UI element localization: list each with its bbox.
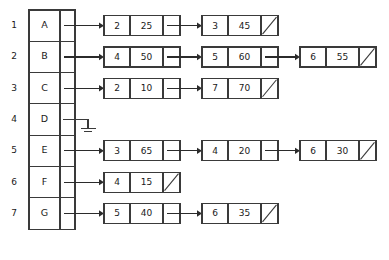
node-value: 15 <box>141 177 152 187</box>
node-value: 65 <box>141 146 152 156</box>
vertex-label-G: G <box>41 207 48 218</box>
node-value: 55 <box>337 52 348 62</box>
node-value: 40 <box>141 208 153 218</box>
list-node[interactable]: 345 <box>202 16 278 36</box>
arrow-head-icon <box>197 54 202 60</box>
row-number-6: 6 <box>11 177 17 187</box>
row-number-3: 3 <box>11 83 17 93</box>
chain-row-7: 540635 <box>64 203 278 223</box>
node-index: 4 <box>114 177 120 187</box>
arrow-head-icon <box>197 22 202 28</box>
vertex-label-F: F <box>42 176 47 187</box>
arrow-head-icon <box>99 54 104 60</box>
arrow-head-icon <box>197 85 202 91</box>
row-number-7: 7 <box>11 208 17 218</box>
node-value: 35 <box>239 208 250 218</box>
list-node[interactable]: 770 <box>202 78 278 98</box>
node-index: 2 <box>114 21 120 31</box>
arrow-head-icon <box>99 210 104 216</box>
row-number-5: 5 <box>11 145 17 155</box>
adjacency-list-diagram: 1A2B3C4D5E6F7G22534545056065521077036542… <box>0 0 389 260</box>
node-index: 6 <box>212 208 218 218</box>
node-index: 3 <box>212 21 218 31</box>
chain-row-5: 365420630 <box>64 141 376 161</box>
node-index: 6 <box>310 52 316 62</box>
arrow-head-icon <box>197 210 202 216</box>
vertex-label-E: E <box>41 144 47 155</box>
arrow-head-icon <box>99 179 104 185</box>
chain-row-6: 415 <box>64 172 180 192</box>
node-index: 4 <box>114 52 120 62</box>
chain-row-2: 450560655 <box>64 47 376 67</box>
node-index: 6 <box>310 146 316 156</box>
node-index: 5 <box>114 208 120 218</box>
node-index: 4 <box>212 146 218 156</box>
node-value: 30 <box>337 146 349 156</box>
node-value: 50 <box>141 52 153 62</box>
node-index: 3 <box>114 146 120 156</box>
vertex-label-C: C <box>41 82 48 93</box>
list-node[interactable]: 630 <box>300 141 376 161</box>
node-index: 5 <box>212 52 218 62</box>
arrow-head-icon <box>295 148 300 154</box>
list-node[interactable]: 415 <box>104 172 180 192</box>
node-value: 10 <box>141 83 153 93</box>
arrow-head-icon <box>99 85 104 91</box>
node-index: 7 <box>212 83 218 93</box>
node-value: 70 <box>239 83 251 93</box>
arrow-head-icon <box>197 148 202 154</box>
vertex-label-B: B <box>41 50 48 61</box>
node-value: 60 <box>239 52 251 62</box>
node-value: 45 <box>239 21 250 31</box>
vertex-label-A: A <box>41 19 48 30</box>
row-number-4: 4 <box>11 114 17 124</box>
diagram-canvas: 1A2B3C4D5E6F7G22534545056065521077036542… <box>0 0 389 260</box>
arrow-head-icon <box>99 22 104 28</box>
list-node[interactable]: 635 <box>202 203 278 223</box>
node-value: 20 <box>239 146 251 156</box>
arrow-head-icon <box>99 148 104 154</box>
vertex-label-D: D <box>41 113 48 124</box>
node-index: 2 <box>114 83 120 93</box>
chain-row-3: 210770 <box>64 78 278 98</box>
row-number-2: 2 <box>11 51 17 61</box>
arrow-head-icon <box>295 54 300 60</box>
list-node[interactable]: 655 <box>300 47 376 67</box>
row-number-1: 1 <box>11 20 17 30</box>
node-value: 25 <box>141 21 152 31</box>
adjacency-chains: 225345450560655210770365420630415540635 <box>63 16 376 224</box>
chain-row-1: 225345 <box>64 16 278 36</box>
